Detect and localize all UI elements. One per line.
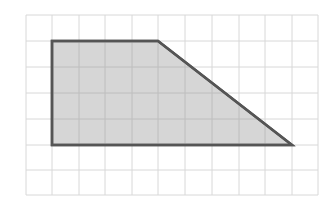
grid-diagram (0, 0, 330, 198)
diagram-canvas (0, 0, 330, 198)
